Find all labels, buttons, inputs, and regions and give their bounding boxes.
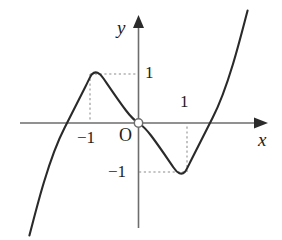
origin-label: O (119, 126, 132, 144)
x-tick-label-positive-one: 1 (180, 93, 189, 110)
x-axis-arrow-icon (254, 118, 268, 129)
y-tick-label-negative-one: −1 (108, 163, 126, 180)
y-tick-label-positive-one: 1 (145, 64, 154, 81)
x-axis-label: x (258, 130, 266, 149)
cubic-function-plot (0, 0, 282, 240)
figure-container: y x O −1 1 1 −1 (0, 0, 282, 240)
origin-point-marker (134, 119, 142, 127)
y-axis-arrow-icon (133, 15, 144, 28)
x-tick-label-negative-one: −1 (77, 129, 95, 146)
y-axis-label: y (117, 18, 125, 37)
